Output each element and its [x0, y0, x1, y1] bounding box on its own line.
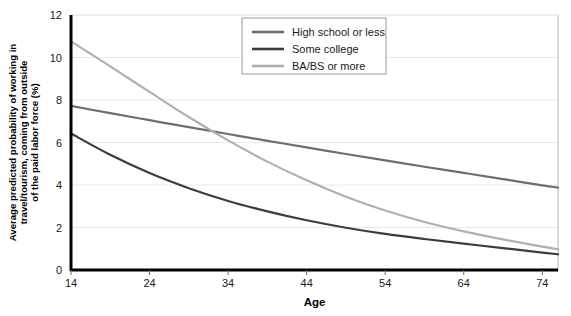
- legend-label-1: Some college: [292, 43, 359, 55]
- y-tick-label-8: 8: [56, 94, 62, 106]
- y-tick-label-12: 12: [50, 9, 62, 21]
- x-axis-title: Age: [304, 296, 326, 308]
- y-tick-label-6: 6: [56, 137, 62, 149]
- legend-label-0: High school or less: [292, 26, 385, 38]
- chart-legend: High school or lessSome collegeBA/BS or …: [242, 18, 386, 74]
- x-axis-title: Age: [304, 296, 326, 308]
- y-tick-label-10: 10: [50, 52, 62, 64]
- x-tick-label-64: 64: [458, 277, 470, 289]
- y-tick-label-0: 0: [56, 264, 62, 276]
- x-tick-label-24: 24: [143, 277, 155, 289]
- y-axis-title-line-0: Average predicted probability of working…: [7, 44, 18, 242]
- chart-container: 14243444546474 024681012 Average predict…: [0, 0, 571, 316]
- x-tick-label-14: 14: [65, 277, 77, 289]
- x-tick-label-44: 44: [301, 277, 313, 289]
- y-tick-label-4: 4: [56, 179, 62, 191]
- line-chart: 14243444546474 024681012 Average predict…: [0, 0, 571, 316]
- legend-label-2: BA/BS or more: [292, 60, 365, 72]
- y-axis-title-line-2: of the paid labor force (%): [29, 83, 40, 201]
- x-tick-label-34: 34: [222, 277, 234, 289]
- x-tick-label-74: 74: [536, 277, 548, 289]
- x-tick-label-54: 54: [379, 277, 391, 289]
- y-tick-label-2: 2: [56, 222, 62, 234]
- y-axis-title-line-1: travel/tourism, coming from outside: [18, 61, 29, 225]
